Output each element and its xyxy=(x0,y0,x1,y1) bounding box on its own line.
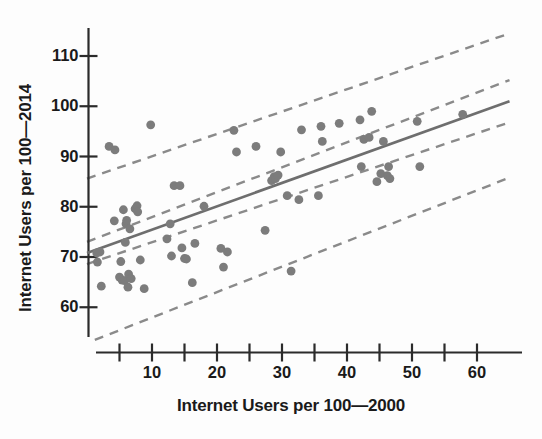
data-point-markers xyxy=(92,107,467,293)
data-point xyxy=(163,235,172,244)
data-point xyxy=(230,126,239,135)
data-point xyxy=(415,162,424,171)
x-tick-label: 40 xyxy=(327,363,367,382)
x-tick-label: 60 xyxy=(457,363,497,382)
data-point xyxy=(357,162,366,171)
data-point xyxy=(111,146,120,155)
x-tick-label: 50 xyxy=(392,363,432,382)
data-point xyxy=(223,248,232,257)
data-point xyxy=(386,174,395,183)
data-point xyxy=(365,133,374,142)
data-point xyxy=(122,216,131,225)
data-point xyxy=(125,224,134,233)
data-point xyxy=(133,207,142,216)
data-point xyxy=(458,110,467,119)
data-point xyxy=(178,244,187,253)
y-tick-label: 90 xyxy=(37,147,79,166)
data-point xyxy=(295,195,304,204)
data-point xyxy=(200,202,209,211)
y-axis-title: Internet Users per 100—2014 xyxy=(16,28,36,368)
data-point xyxy=(140,284,149,293)
data-point xyxy=(379,137,388,146)
data-point xyxy=(314,191,323,200)
data-point xyxy=(335,119,344,128)
data-point xyxy=(166,219,175,228)
data-point xyxy=(116,257,125,266)
y-tick-label: 60 xyxy=(37,297,79,316)
data-point xyxy=(188,278,197,287)
data-point xyxy=(182,255,191,264)
data-point xyxy=(283,191,292,200)
data-point xyxy=(136,256,145,265)
band-line-outer-upper xyxy=(87,33,510,178)
data-point xyxy=(261,226,270,235)
data-point xyxy=(110,216,119,225)
y-tick-label: 110 xyxy=(37,46,79,65)
x-tick-label: 10 xyxy=(132,363,172,382)
data-point xyxy=(367,107,376,116)
prediction-band-lines xyxy=(87,33,510,340)
x-tick-label: 30 xyxy=(262,363,302,382)
data-point xyxy=(176,181,185,190)
data-point xyxy=(96,248,105,257)
data-point xyxy=(127,274,136,283)
data-point xyxy=(97,282,106,291)
data-point xyxy=(232,148,241,157)
data-point xyxy=(413,117,422,126)
data-point xyxy=(119,205,128,214)
data-point xyxy=(317,122,326,131)
data-point xyxy=(318,137,327,146)
band-line-inner-upper xyxy=(87,80,510,242)
data-point xyxy=(124,283,133,292)
data-point xyxy=(191,239,200,248)
data-point xyxy=(384,162,393,171)
data-point xyxy=(287,267,296,276)
y-tick-label: 100 xyxy=(37,96,79,115)
y-tick-label: 70 xyxy=(37,247,79,266)
data-point xyxy=(373,177,382,186)
scatter-plot-figure: 60708090100110 102030405060 Internet Use… xyxy=(0,0,542,439)
data-point xyxy=(93,258,102,267)
band-line-inner-lower xyxy=(87,122,510,264)
y-tick-label: 80 xyxy=(37,197,79,216)
axis-lines-and-ticks xyxy=(80,28,523,362)
x-tick-label: 20 xyxy=(197,363,237,382)
data-point xyxy=(276,148,285,157)
data-point xyxy=(252,142,261,151)
data-point xyxy=(297,125,306,134)
data-point xyxy=(356,115,365,124)
x-axis-title: Internet Users per 100—2000 xyxy=(0,396,542,416)
data-point xyxy=(146,120,155,129)
data-point xyxy=(167,252,176,261)
data-point xyxy=(121,238,130,247)
data-point xyxy=(274,171,283,180)
data-point xyxy=(219,263,228,272)
